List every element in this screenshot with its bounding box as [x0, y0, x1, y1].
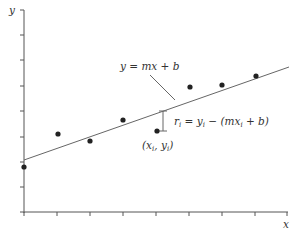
residual-equation-label: ri = yi − (mxi + b): [174, 115, 269, 129]
x-axis-ticks: [24, 212, 287, 216]
data-point-i: [154, 128, 159, 133]
least-squares-diagram: y x y = mx + b ri = yi − (mxi + b) (xi, …: [0, 0, 299, 235]
x-axis-label: x: [283, 218, 289, 230]
y-axis-ticks: [20, 35, 24, 187]
y-axis-label: y: [8, 4, 16, 16]
data-point: [87, 138, 92, 143]
data-point: [253, 73, 258, 78]
data-point: [219, 82, 224, 87]
data-point: [187, 84, 192, 89]
point-label: (xi, yi): [142, 139, 173, 153]
line-label-leader: [150, 75, 175, 100]
data-point: [55, 131, 60, 136]
data-point: [120, 117, 125, 122]
data-point: [21, 164, 26, 169]
residual-bracket: [159, 111, 167, 131]
diagram-canvas: y x y = mx + b ri = yi − (mxi + b) (xi, …: [0, 0, 299, 235]
line-equation-label: y = mx + b: [119, 60, 180, 72]
